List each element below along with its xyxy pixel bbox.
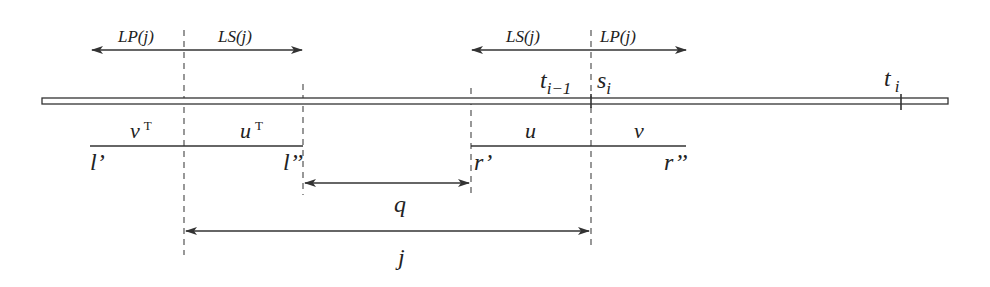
label-l-double-prime: l’’	[283, 149, 303, 175]
label-t-i-minus-1: ti−1	[540, 67, 571, 98]
label-l-prime: l’	[90, 149, 105, 175]
label-r-prime: r’	[474, 149, 492, 175]
label-j: j	[395, 244, 405, 270]
label-s-i: si	[597, 67, 611, 98]
label-v-transpose: vT	[130, 118, 152, 143]
label-lp-left: LP(j)	[117, 27, 154, 46]
label-lp-right: LP(j)	[599, 27, 636, 46]
label-ls-left: LS(j)	[217, 27, 252, 46]
suffix-prefix-diagram: LP(j) LS(j) LS(j) LP(j) ti−1 si ti vT uT…	[0, 0, 990, 287]
text-bar	[42, 98, 948, 104]
label-r-double-prime: r’’	[664, 149, 688, 175]
label-v: v	[634, 118, 644, 143]
label-q: q	[394, 191, 406, 217]
label-ls-right: LS(j)	[505, 27, 540, 46]
label-t-i: ti	[884, 65, 900, 96]
label-u-transpose: uT	[240, 118, 263, 143]
label-u: u	[525, 118, 536, 143]
